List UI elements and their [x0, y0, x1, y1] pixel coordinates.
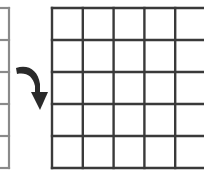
arrow-shaft [16, 67, 40, 96]
target-grid [52, 8, 204, 168]
grid-transformation-diagram [0, 0, 204, 175]
source-grid [0, 8, 9, 168]
curved-down-arrow-icon [16, 67, 48, 110]
arrow-head [31, 92, 48, 110]
